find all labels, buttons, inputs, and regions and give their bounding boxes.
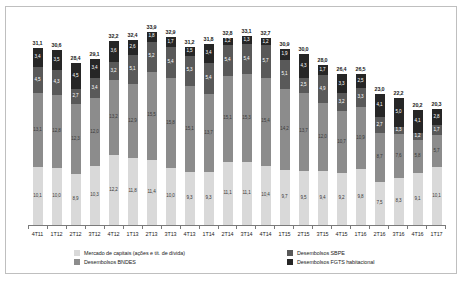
bar-group: 31,13,44,513,110,130,63,54,312,810,028,4… bbox=[28, 17, 446, 225]
bar-segment: 3,4 bbox=[204, 44, 214, 63]
axis-tick bbox=[66, 225, 67, 229]
x-axis-label: 2T14 bbox=[218, 231, 237, 237]
bar-segment: 5,3 bbox=[185, 56, 195, 86]
segment-value-label: 5,7 bbox=[262, 59, 268, 64]
segment-value-label: 5,8 bbox=[414, 154, 420, 159]
legend-label: Desembolsos BNDES bbox=[84, 259, 136, 265]
plot-area: 31,13,44,513,110,130,63,54,312,810,028,4… bbox=[28, 17, 446, 225]
stacked-bar: 1,95,114,29,7 bbox=[280, 49, 290, 225]
bar-segment: 9,4 bbox=[318, 171, 328, 225]
bar-segment: 10,1 bbox=[33, 167, 43, 225]
segment-value-label: 15,3 bbox=[242, 116, 251, 121]
segment-value-label: 2,7 bbox=[376, 123, 382, 128]
bar-segment: 5,4 bbox=[204, 63, 214, 94]
bar-segment: 5,4 bbox=[223, 45, 233, 76]
bar-segment: 3,6 bbox=[109, 41, 119, 62]
segment-value-label: 4,5 bbox=[34, 78, 40, 83]
stacked-bar: 3,54,312,810,0 bbox=[52, 50, 62, 225]
bar-segment: 5,4 bbox=[242, 44, 252, 75]
stacked-bar: 4,12,78,77,5 bbox=[375, 94, 385, 225]
segment-value-label: 1,2 bbox=[224, 39, 230, 44]
segment-value-label: 4,3 bbox=[300, 64, 306, 69]
chart-frame: 31,13,44,513,110,130,63,54,312,810,028,4… bbox=[5, 6, 457, 274]
segment-value-label: 5,0 bbox=[395, 110, 401, 115]
x-axis-label: 1T14 bbox=[199, 231, 218, 237]
axis-tick bbox=[161, 225, 162, 229]
segment-value-label: 3,6 bbox=[110, 49, 116, 54]
bar-segment: 15,1 bbox=[185, 86, 195, 172]
segment-value-label: 4,1 bbox=[376, 103, 382, 108]
bar-segment: 2,7 bbox=[375, 117, 385, 132]
segment-value-label: 9,4 bbox=[319, 196, 325, 201]
bar-segment: 4,3 bbox=[52, 70, 62, 95]
x-axis-label: 4T15 bbox=[332, 231, 351, 237]
segment-value-label: 7,6 bbox=[395, 154, 401, 159]
x-axis-label: 2T16 bbox=[370, 231, 389, 237]
axis-tick bbox=[180, 225, 181, 229]
bar-segment: 13,1 bbox=[33, 93, 43, 168]
segment-value-label: 2,8 bbox=[433, 115, 439, 120]
axis-tick bbox=[123, 225, 124, 229]
bar-column: 33,91,85,215,511,4 bbox=[142, 17, 161, 225]
stacked-bar: 2,65,112,911,8 bbox=[128, 40, 138, 225]
axis-tick bbox=[331, 225, 332, 229]
legend-item[interactable]: Desembolsos BNDES bbox=[74, 259, 269, 265]
bar-segment: 10,4 bbox=[261, 166, 271, 225]
segment-value-label: 10,0 bbox=[52, 194, 61, 199]
stacked-bar: 1,55,315,19,3 bbox=[185, 47, 195, 225]
bar-segment: 9,3 bbox=[204, 172, 214, 225]
segment-value-label: 3,3 bbox=[357, 95, 363, 100]
bar-segment: 2,6 bbox=[128, 40, 138, 55]
stacked-bar: 5,01,37,68,3 bbox=[394, 98, 404, 225]
segment-value-label: 10,7 bbox=[337, 140, 346, 145]
axis-tick bbox=[407, 225, 408, 229]
stacked-bar: 3,63,213,212,2 bbox=[109, 41, 119, 225]
axis-tick bbox=[218, 225, 219, 229]
segment-value-label: 5,4 bbox=[243, 57, 249, 62]
segment-value-label: 8,9 bbox=[72, 197, 78, 202]
segment-value-label: 1,7 bbox=[433, 128, 439, 133]
legend-column-left: Mercado de capitais (ações e tít. de dív… bbox=[34, 250, 269, 265]
x-axis-label: 3T12 bbox=[85, 231, 104, 237]
legend-item[interactable]: Desembolsos SBPE bbox=[287, 250, 374, 256]
bar-segment: 4,1 bbox=[375, 94, 385, 117]
segment-value-label: 4,3 bbox=[53, 80, 59, 85]
bar-segment: 1,5 bbox=[185, 47, 195, 56]
segment-value-label: 10,1 bbox=[432, 194, 441, 199]
bar-segment: 15,8 bbox=[166, 78, 176, 168]
axis-tick bbox=[142, 225, 143, 229]
segment-value-label: 5,4 bbox=[224, 58, 230, 63]
stacked-bar: 2,81,75,710,1 bbox=[432, 109, 442, 225]
stacked-bar: 2,53,310,99,8 bbox=[356, 74, 366, 225]
bar-segment: 15,3 bbox=[242, 74, 252, 161]
legend-label: Desembolsos FGTS habitacional bbox=[297, 259, 374, 265]
bar-column: 29,13,43,412,010,3 bbox=[85, 17, 104, 225]
bar-segment: 10,7 bbox=[337, 111, 347, 172]
bar-column: 33,11,35,415,311,1 bbox=[237, 17, 256, 225]
segment-value-label: 7,5 bbox=[376, 201, 382, 206]
axis-tick bbox=[293, 225, 294, 229]
x-axis-label: 1T13 bbox=[123, 231, 142, 237]
bar-segment: 2,5 bbox=[299, 78, 309, 92]
bar-column: 20,24,11,25,89,1 bbox=[408, 17, 427, 225]
bar-segment: 1,2 bbox=[223, 38, 233, 45]
axis-tick bbox=[350, 225, 351, 229]
bar-segment: 12,0 bbox=[318, 103, 328, 171]
segment-value-label: 12,3 bbox=[71, 137, 80, 142]
segment-value-label: 9,8 bbox=[357, 195, 363, 200]
bar-segment: 3,4 bbox=[90, 78, 100, 97]
bar-column: 32,91,75,415,810,0 bbox=[161, 17, 180, 225]
segment-value-label: 11,4 bbox=[147, 190, 155, 195]
stacked-bar: 3,33,210,79,2 bbox=[337, 74, 347, 225]
x-axis-label: 4T13 bbox=[180, 231, 199, 237]
stacked-bar: 1,25,715,410,4 bbox=[261, 38, 271, 225]
x-axis-label: 3T14 bbox=[237, 231, 256, 237]
segment-value-label: 10,1 bbox=[33, 194, 42, 199]
bar-segment: 2,7 bbox=[71, 89, 81, 104]
segment-value-label: 9,3 bbox=[205, 196, 211, 201]
bar-column: 32,71,25,715,410,4 bbox=[256, 17, 275, 225]
legend-item[interactable]: Mercado de capitais (ações e tít. de dív… bbox=[74, 250, 269, 256]
bar-segment: 4,9 bbox=[318, 75, 328, 103]
bar-column: 26,43,33,210,79,2 bbox=[332, 17, 351, 225]
legend-item[interactable]: Desembolsos FGTS habitacional bbox=[287, 259, 374, 265]
